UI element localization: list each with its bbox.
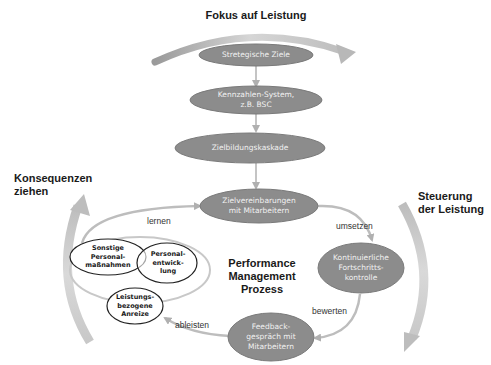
node-feedbackgespraech: Feedback- gespräch mit Mitarbeitern (228, 313, 314, 361)
node-strategische-ziele: Stretegische Ziele (199, 44, 313, 66)
right-curved-arrow-icon (402, 204, 424, 352)
node-kennzahlen-system: Kennzahlen-System, z.B. BSC (190, 86, 322, 114)
title-fokus-auf-leistung: Fokus auf Leistung (196, 9, 316, 22)
edge-label-ableisten: ableisten (175, 320, 209, 330)
label-steuerung-der-leistung: Steuerung der Leistung (418, 190, 484, 216)
node-sonstige-personalmassnahmen: Sonstige Personal- maßnahmen (70, 239, 146, 275)
edge-label-bewerten: bewerten (312, 306, 347, 316)
node-leistungsbezogene-anreize: Leistungs- bezogene Anreize (107, 288, 163, 324)
edge-label-umsetzen: umsetzen (336, 221, 373, 231)
label-performance-management-prozess: Performance Management Prozess (222, 257, 302, 296)
label-konsequenzen-ziehen: Konsequenzen ziehen (14, 172, 92, 198)
node-zielvereinbarungen: Zielvereinbarungen mit Mitarbeitern (200, 189, 318, 223)
node-fortschrittskontrolle: Kontinuierliche Fortschritts- kontrolle (318, 243, 404, 293)
node-personalentwicklung: Personal- entwick- lung (140, 243, 196, 283)
node-zielbildungskaskade: Zielbildungskaskade (175, 133, 325, 163)
edge-label-lernen: lernen (147, 216, 171, 226)
